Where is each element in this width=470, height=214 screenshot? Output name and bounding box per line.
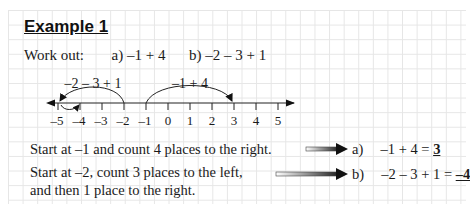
answer-b-result: –4	[456, 166, 470, 182]
answer-a: a) –1 + 4 = 3	[352, 141, 440, 158]
tick-label: 2	[209, 113, 216, 129]
tick-label: 5	[275, 113, 282, 129]
answer-a-expression: –1 + 4 =	[381, 141, 434, 157]
tick-label: 4	[253, 113, 260, 129]
axis-left-arrow-icon	[46, 100, 55, 107]
tick-label: –5	[51, 113, 64, 129]
axis-right-arrow-icon	[286, 100, 295, 107]
tick-label: 3	[231, 113, 238, 129]
answer-b-expression: –2 – 3 + 1 =	[381, 166, 455, 182]
answer-b: b) –2 – 3 + 1 = –4	[352, 166, 470, 183]
arrow-to-answer-a-icon	[306, 143, 348, 155]
answer-a-result: 3	[433, 141, 440, 157]
tick-label: –3	[95, 113, 108, 129]
tick-label: 1	[187, 113, 194, 129]
jump-label-a: –1 + 4	[172, 76, 208, 92]
tick-label: –2	[117, 113, 130, 129]
tick-label: –1	[139, 113, 152, 129]
jump-label-b: –2 – 3 + 1	[65, 76, 122, 92]
arrow-to-answer-b-icon	[276, 168, 348, 180]
answer-b-label: b)	[352, 166, 364, 182]
explanation-b-line-1: Start at –2, count 3 places to the left,	[30, 164, 243, 181]
tick-label: –4	[73, 113, 86, 129]
tick-label: 0	[165, 113, 172, 129]
jump-arc-b-right	[61, 105, 79, 110]
answer-a-label: a)	[352, 141, 363, 157]
explanation-a: Start at –1 and count 4 places to the ri…	[30, 141, 272, 158]
axis-ticks	[58, 103, 278, 110]
explanation-b-line-2: and then 1 place to the right.	[30, 182, 196, 199]
